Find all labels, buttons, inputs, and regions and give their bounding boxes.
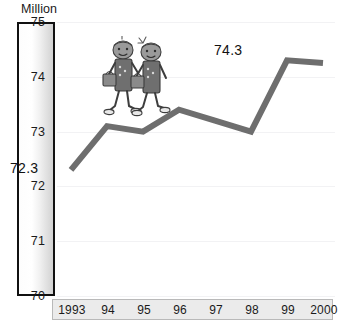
y-tick-label: 71 — [19, 234, 57, 248]
y-axis-unit-label: Million — [21, 2, 57, 16]
x-tick-label: 95 — [137, 303, 151, 317]
x-tick-label: 1993 — [58, 303, 86, 317]
x-axis: 19939495969798992000 — [52, 299, 333, 320]
data-label-end: 74.3 — [214, 42, 242, 58]
y-tick-label: 73 — [19, 125, 57, 139]
x-tick-label: 94 — [101, 303, 115, 317]
x-tick-label: 96 — [173, 303, 187, 317]
x-tick-label: 99 — [281, 303, 295, 317]
data-label-start: 72.3 — [10, 160, 38, 176]
x-tick-label: 2000 — [310, 303, 338, 317]
y-tick-label: 75 — [19, 15, 57, 29]
y-tick-label: 74 — [19, 70, 57, 84]
gridline — [57, 296, 335, 297]
y-axis: 757473727170 — [17, 22, 55, 296]
x-tick-label: 98 — [245, 303, 259, 317]
schoolchildren-illustration — [98, 36, 178, 122]
y-tick-label: 72 — [19, 179, 57, 193]
x-tick-label: 97 — [209, 303, 223, 317]
